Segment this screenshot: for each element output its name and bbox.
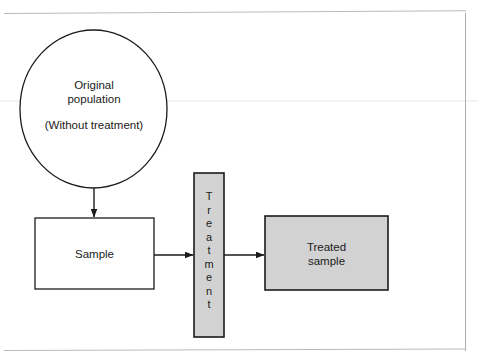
treated-sample-box [265, 216, 388, 290]
original-population-circle [20, 30, 167, 188]
figure-root: Original population (Without treatment) … [0, 0, 478, 361]
diagram-canvas [0, 0, 478, 361]
sample-box [35, 218, 154, 289]
treatment-bar [194, 173, 224, 337]
